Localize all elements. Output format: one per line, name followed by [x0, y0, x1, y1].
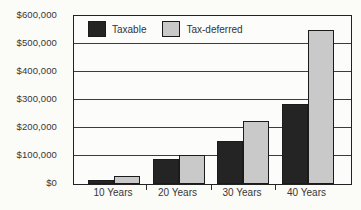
bar-taxable-20-years [153, 159, 179, 184]
y-axis-label: $500,000 [0, 37, 57, 48]
plot-area: Taxable Tax-deferred [73, 15, 352, 185]
y-axis-label: $200,000 [0, 121, 57, 132]
bar-tax-deferred-40-years [308, 30, 334, 184]
legend-label-taxable: Taxable [112, 24, 146, 35]
x-axis-label: 40 Years [277, 187, 337, 198]
bar-taxable-10-years [88, 180, 114, 184]
y-axis-label: $0 [0, 177, 57, 188]
legend-swatch-tax-deferred [162, 21, 180, 37]
y-axis-label: $400,000 [0, 65, 57, 76]
bar-tax-deferred-20-years [179, 155, 205, 184]
x-axis-label: 30 Years [212, 187, 272, 198]
y-axis-label: $600,000 [0, 9, 57, 20]
y-axis-label: $100,000 [0, 149, 57, 160]
x-axis-label: 10 Years [83, 187, 143, 198]
bar-taxable-40-years [282, 104, 308, 184]
bar-taxable-30-years [217, 141, 243, 184]
legend-label-tax-deferred: Tax-deferred [186, 24, 242, 35]
y-axis-label: $300,000 [0, 93, 57, 104]
bar-chart-figure: $0$100,000$200,000$300,000$400,000$500,0… [0, 0, 361, 210]
legend-swatch-taxable [88, 21, 106, 37]
legend: Taxable Tax-deferred [88, 21, 243, 37]
bar-tax-deferred-30-years [243, 121, 269, 184]
x-axis-label: 20 Years [148, 187, 208, 198]
bar-tax-deferred-10-years [114, 176, 140, 184]
